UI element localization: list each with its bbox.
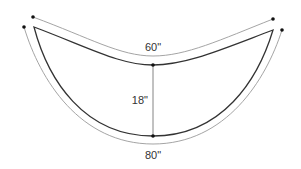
crescent-diagram: 60" 18" 80" bbox=[0, 0, 301, 169]
bottom-arc-label: 80" bbox=[145, 149, 161, 161]
depth-top-dot bbox=[151, 63, 155, 67]
depth-bottom-dot bbox=[151, 134, 155, 138]
bottom-left-dot bbox=[22, 25, 26, 29]
top-arc-label: 60" bbox=[145, 41, 161, 53]
top-left-dot bbox=[31, 15, 35, 19]
bottom-right-dot bbox=[280, 28, 284, 32]
depth-label: 18" bbox=[132, 94, 148, 106]
top-right-dot bbox=[271, 17, 275, 21]
